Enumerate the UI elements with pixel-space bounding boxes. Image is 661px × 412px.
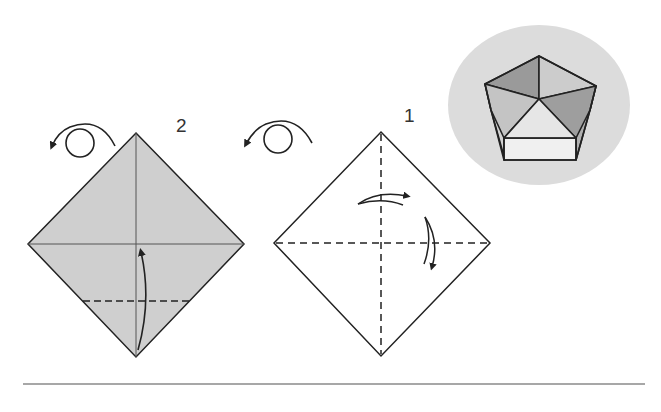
- step-1-diagram: [274, 132, 490, 356]
- turn-over-icon: [246, 121, 312, 153]
- step-2-number: 2: [176, 116, 187, 135]
- step-1-number: 1: [404, 106, 415, 125]
- step-2-diagram: [28, 133, 244, 357]
- turn-over-icon: [52, 124, 115, 157]
- step-1-paper: [274, 132, 490, 356]
- finished-model-badge: [448, 25, 630, 185]
- origami-diagram: [0, 0, 661, 412]
